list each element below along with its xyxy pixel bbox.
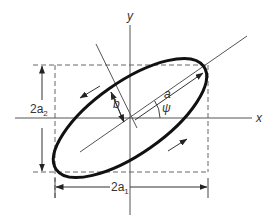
height-label: 2a2	[30, 102, 48, 118]
semi-major-label: a	[164, 87, 171, 101]
angle-label: ψ	[162, 101, 171, 115]
x-axis-label: x	[255, 111, 263, 125]
y-axis-label: y	[126, 9, 134, 23]
semi-minor-label: b	[113, 97, 120, 111]
minor-axis-line	[96, 44, 137, 128]
bounding-rectangle	[33, 65, 208, 198]
width-label: 2a1	[111, 180, 129, 196]
rotation-arrow-lower	[168, 139, 187, 151]
polarization-ellipse-diagram: x y a b ψ 2a2 2a1	[0, 0, 276, 215]
